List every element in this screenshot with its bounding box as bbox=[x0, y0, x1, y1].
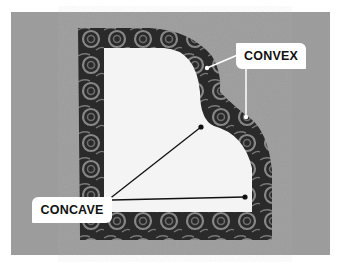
convex-point-2 bbox=[244, 115, 248, 119]
concave-point-1 bbox=[198, 124, 203, 129]
convex-point-1 bbox=[205, 66, 209, 70]
concave-label: CONCAVE bbox=[32, 197, 112, 223]
convex-label: CONVEX bbox=[236, 43, 306, 69]
illustration bbox=[0, 0, 340, 268]
concave-point-2 bbox=[242, 194, 247, 199]
